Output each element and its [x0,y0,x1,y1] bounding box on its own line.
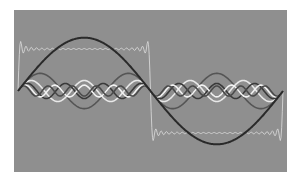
fundamental-line [18,38,283,145]
waveform-plot [14,10,287,172]
plot-panel [14,10,287,172]
